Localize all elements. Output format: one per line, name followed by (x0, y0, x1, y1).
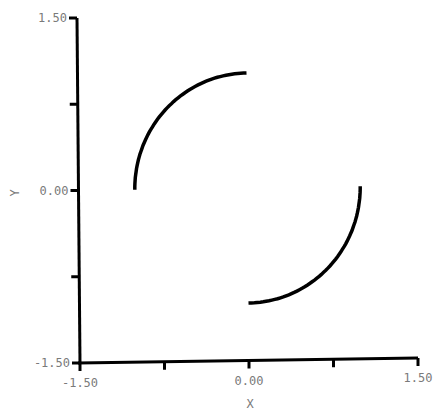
x-tick-labels: -1.500.001.50 (62, 371, 433, 390)
arc-series (135, 73, 247, 190)
plot-area: -1.500.001.50 -1.500.001.50 X Y (8, 11, 432, 411)
y-tick-labels: -1.500.001.50 (34, 11, 70, 370)
y-tick-label: -1.50 (34, 356, 70, 370)
x-axis-label: X (246, 397, 254, 411)
arc-series (249, 186, 361, 303)
x-tick-label: -1.50 (62, 376, 98, 390)
chart: -1.500.001.50 -1.500.001.50 X Y (0, 0, 434, 419)
y-tick-label: 1.50 (38, 11, 67, 25)
y-axis-label: Y (8, 189, 22, 197)
x-tick-label: 0.00 (235, 374, 264, 388)
y-tick-label: 0.00 (40, 184, 69, 198)
series-group (135, 73, 360, 303)
x-tick-label: 1.50 (404, 371, 433, 385)
